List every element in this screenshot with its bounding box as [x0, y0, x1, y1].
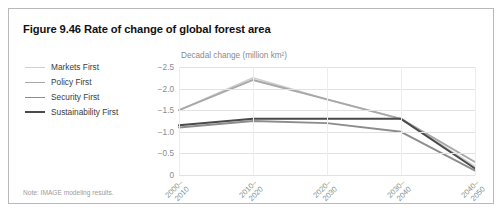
legend-swatch-icon: [25, 82, 45, 83]
legend-item-label: Security First: [51, 92, 99, 102]
x-axis-tick-label: 2040–2050: [460, 179, 487, 206]
y-gridline: [179, 175, 475, 176]
y-axis-tick-label: −1.5: [158, 106, 174, 115]
legend-swatch-icon: [25, 97, 45, 98]
legend-item-label: Sustainability First: [51, 107, 118, 117]
x-gridline: [475, 67, 476, 175]
x-axis-tick-label: 2010–2020: [238, 179, 265, 206]
x-gridline: [179, 67, 180, 175]
page-title: Figure 9.46 Rate of change of global for…: [23, 23, 271, 35]
x-axis-tick-label: 2000–2010: [164, 179, 191, 206]
legend-item[interactable]: Markets First: [25, 61, 140, 73]
legend-item-label: Markets First: [51, 62, 99, 72]
y-axis-title: Decadal change (million km²): [181, 51, 287, 60]
y-axis-tick-label: −0.5: [158, 149, 174, 158]
legend-item-label: Policy First: [51, 77, 92, 87]
figure-panel: Figure 9.46 Rate of change of global for…: [8, 8, 494, 204]
x-gridline: [401, 67, 402, 175]
y-axis-tick-label: −2.5: [158, 63, 174, 72]
x-gridline: [327, 67, 328, 175]
y-axis-tick-label: −2.0: [158, 84, 174, 93]
plot-area: −2.5−2.0−1.5−1.0−0.502000–20102010–20202…: [179, 67, 475, 175]
x-axis-tick-label: 2030–2040: [386, 179, 413, 206]
y-axis-tick-label: 0: [169, 171, 174, 180]
chart-footnote: Note: IMAGE modeling results.: [23, 189, 114, 196]
legend-swatch-icon: [25, 67, 45, 68]
x-gridline: [253, 67, 254, 175]
legend-swatch-icon: [25, 111, 45, 113]
legend-item[interactable]: Policy First: [25, 76, 140, 88]
legend-item[interactable]: Security First: [25, 91, 140, 103]
x-axis-tick-label: 2020–2030: [312, 179, 339, 206]
y-axis-tick-label: −1.0: [158, 127, 174, 136]
legend-item[interactable]: Sustainability First: [25, 106, 140, 118]
chart-legend: Markets FirstPolicy FirstSecurity FirstS…: [25, 61, 140, 121]
